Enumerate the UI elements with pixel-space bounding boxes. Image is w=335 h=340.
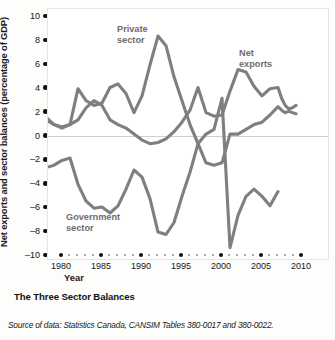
x-minor-tick bbox=[84, 254, 86, 256]
series-label-net-exports: Net exports bbox=[239, 48, 272, 69]
y-tick-label: –8 bbox=[0, 227, 40, 235]
x-minor-tick bbox=[132, 254, 134, 256]
x-minor-tick bbox=[108, 254, 110, 256]
x-minor-tick bbox=[164, 254, 166, 256]
x-tick-label: 2000 bbox=[203, 261, 239, 271]
x-minor-tick bbox=[284, 254, 286, 256]
figure-container: Net exports and sector balances (percent… bbox=[0, 0, 335, 340]
x-tick-label: 2010 bbox=[283, 261, 319, 271]
x-minor-tick bbox=[116, 254, 118, 256]
series-label-government-sector: Government sector bbox=[66, 212, 120, 233]
x-minor-tick bbox=[156, 254, 158, 256]
series-label-private-sector: Private sector bbox=[117, 24, 148, 45]
y-tick-label: –2 bbox=[0, 155, 40, 163]
x-minor-tick bbox=[196, 254, 198, 256]
x-minor-tick bbox=[148, 254, 150, 256]
x-minor-tick bbox=[228, 254, 230, 256]
y-tick-label: 2 bbox=[0, 108, 40, 116]
x-tick-label: 1990 bbox=[123, 261, 159, 271]
y-tick-label: 4 bbox=[0, 84, 40, 92]
x-minor-tick bbox=[252, 254, 254, 256]
y-tick-label: –6 bbox=[0, 203, 40, 211]
x-minor-tick bbox=[204, 254, 206, 256]
x-minor-tick bbox=[244, 254, 246, 256]
x-minor-tick bbox=[268, 254, 270, 256]
y-tick-label: 6 bbox=[0, 60, 40, 68]
x-minor-tick bbox=[276, 254, 278, 256]
y-tick-label: –4 bbox=[0, 179, 40, 187]
x-minor-tick bbox=[188, 254, 190, 256]
y-tick-label: 8 bbox=[0, 36, 40, 44]
x-axis-title: Year bbox=[64, 272, 84, 283]
x-minor-tick bbox=[236, 254, 238, 256]
x-tick-label: 1980 bbox=[43, 261, 79, 271]
x-minor-tick bbox=[76, 254, 78, 256]
figure-title: The Three Sector Balances bbox=[14, 291, 135, 302]
y-tick-label: –10 bbox=[0, 251, 40, 259]
x-minor-tick bbox=[212, 254, 214, 256]
x-tick-label: 1985 bbox=[83, 261, 119, 271]
series-line-net-exports bbox=[48, 70, 296, 144]
x-minor-tick bbox=[68, 254, 70, 256]
x-tick-label: 2005 bbox=[243, 261, 279, 271]
figure-source: Source of data: Statistics Canada, CANSI… bbox=[8, 320, 273, 330]
x-minor-tick bbox=[292, 254, 294, 256]
x-minor-tick bbox=[124, 254, 126, 256]
x-minor-tick bbox=[172, 254, 174, 256]
y-tick-label: 10 bbox=[0, 12, 40, 20]
x-minor-tick bbox=[92, 254, 94, 256]
y-tick-label: 0 bbox=[0, 132, 40, 140]
x-tick-label: 1995 bbox=[163, 261, 199, 271]
